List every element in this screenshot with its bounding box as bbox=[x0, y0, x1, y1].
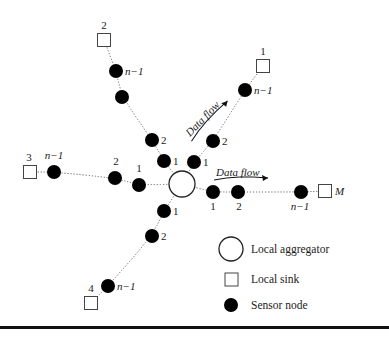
sink-label: 1 bbox=[260, 45, 266, 57]
branch-1: 12n−11 bbox=[187, 45, 272, 169]
sensor-node bbox=[145, 133, 159, 147]
node-label: 2 bbox=[161, 230, 167, 242]
branch-3: 12n−13 bbox=[24, 149, 147, 192]
legend-item-sensor: Sensor node bbox=[224, 298, 308, 312]
node-label: n−1 bbox=[254, 84, 272, 96]
sensor-node bbox=[101, 279, 115, 293]
sensor-node bbox=[206, 185, 220, 199]
arrowhead-icon bbox=[221, 99, 229, 107]
node-label: 2 bbox=[236, 200, 242, 212]
aggregator-icon bbox=[219, 237, 243, 261]
sink-label: M bbox=[334, 185, 345, 197]
node-label: 2 bbox=[161, 134, 167, 146]
data-flow-label: Data flow bbox=[215, 166, 260, 178]
node-label: 1 bbox=[173, 205, 179, 217]
node-label: n−1 bbox=[117, 280, 135, 292]
sensor-node bbox=[294, 185, 308, 199]
sink-label: 2 bbox=[101, 19, 107, 31]
sensor-node bbox=[145, 229, 159, 243]
local-sink bbox=[257, 60, 270, 73]
legend: Local aggregator Local sink Sensor node bbox=[219, 237, 329, 312]
node-label: 2 bbox=[113, 155, 119, 167]
node-label: n−1 bbox=[45, 149, 63, 161]
arrowhead-icon bbox=[262, 175, 268, 181]
sensor-node bbox=[47, 165, 61, 179]
branch-M: 12n−1M bbox=[206, 185, 345, 213]
branch-2: 12n−12 bbox=[98, 19, 179, 168]
sensor-node bbox=[157, 154, 171, 168]
sink-label: 3 bbox=[26, 151, 32, 163]
sensor-node bbox=[231, 185, 245, 199]
sink-icon bbox=[225, 273, 238, 286]
sink-label: 4 bbox=[88, 282, 94, 294]
sensor-network-diagram: 12n−1112n−1212n−1312n−1412n−1M Data flow… bbox=[0, 0, 389, 337]
node-layer: 12n−1112n−1212n−1312n−1412n−1M bbox=[24, 19, 346, 310]
legend-item-aggregator: Local aggregator bbox=[219, 237, 329, 261]
local-sink bbox=[98, 34, 111, 47]
node-label: 1 bbox=[210, 200, 216, 212]
node-label: n−1 bbox=[125, 65, 143, 77]
sensor-node bbox=[108, 171, 122, 185]
bottom-rule bbox=[0, 326, 389, 329]
legend-item-sink: Local sink bbox=[225, 273, 299, 286]
data-flow-label: Data flow bbox=[182, 98, 222, 139]
branch-4: 12n−14 bbox=[85, 204, 179, 310]
sensor-node bbox=[187, 155, 201, 169]
node-label: 1 bbox=[136, 162, 142, 174]
node-label: n−1 bbox=[291, 200, 309, 212]
node-label: 1 bbox=[173, 155, 179, 167]
node-label: 2 bbox=[222, 135, 228, 147]
local-sink bbox=[24, 166, 37, 179]
legend-label: Local sink bbox=[251, 273, 299, 285]
sensor-node bbox=[238, 83, 252, 97]
sensor-node bbox=[206, 134, 220, 148]
legend-label: Sensor node bbox=[251, 299, 308, 311]
sensor-node bbox=[132, 178, 146, 192]
sensor-node-icon bbox=[224, 298, 238, 312]
local-sink bbox=[319, 185, 332, 198]
flow-horizontal: Data flow bbox=[214, 166, 268, 181]
sensor-node bbox=[115, 90, 129, 104]
legend-label: Local aggregator bbox=[251, 243, 329, 256]
local-aggregator bbox=[169, 171, 195, 197]
sensor-node bbox=[109, 64, 123, 78]
node-label: 1 bbox=[203, 156, 209, 168]
local-sink bbox=[85, 297, 98, 310]
sensor-node bbox=[157, 204, 171, 218]
